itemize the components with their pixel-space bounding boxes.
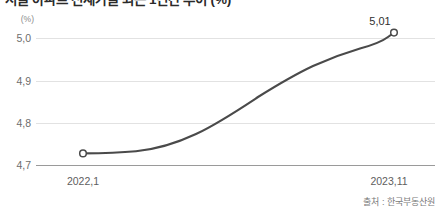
- data-point-marker-start: [80, 150, 87, 157]
- data-label-end-value: 5,01: [369, 16, 390, 27]
- x-tick-label-end: 2023,11: [370, 176, 407, 187]
- series-line-jeonse-ratio: [83, 33, 394, 154]
- data-point-marker-end: [391, 29, 398, 36]
- plot-area: (%) 5,0 4,9 4,8 4,7 5,01 2022,1 2023,11 …: [0, 0, 441, 211]
- source-note: 출처 : 한국부동산원: [363, 198, 435, 207]
- chart-container: 서울 아파트 전세가율 최근 1년간 추이 (%) (%) 5,0 4,9 4,…: [0, 0, 441, 211]
- x-tick-label-start: 2022,1: [67, 176, 99, 187]
